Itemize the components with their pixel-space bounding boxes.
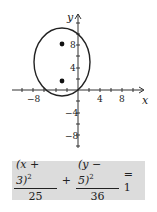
y-axis: 8 4 −4 −8 y (65, 11, 81, 148)
focus-point-lower (60, 79, 65, 84)
y-tick-neg8: −8 (65, 131, 79, 141)
x-axis: −8 4 8 x (12, 87, 149, 107)
equation-box: (x + 3)2 25 + (y − 5)2 36 = 1 (12, 161, 145, 200)
y-tick-8: 8 (70, 40, 76, 50)
denominator-y: 36 (90, 189, 104, 203)
y-axis-label: y (66, 11, 74, 24)
y-tick-neg4: −4 (65, 108, 79, 118)
ellipse-graph: −8 4 8 x 8 4 −4 −8 y (0, 0, 157, 160)
fraction-x: (x + 3)2 25 (14, 158, 57, 203)
x-tick-4: 4 (97, 94, 103, 104)
ellipse-curve (34, 28, 90, 96)
x-axis-label: x (142, 94, 149, 107)
plus-sign: + (62, 174, 71, 187)
denominator-x: 25 (28, 189, 42, 203)
fraction-y: (y − 5)2 36 (76, 158, 119, 203)
x-tick-neg8: −8 (27, 94, 41, 104)
equals-one: = 1 (124, 168, 142, 194)
focus-point-upper (60, 42, 65, 47)
exponent-x: 2 (27, 173, 31, 181)
y-tick-4: 4 (70, 63, 76, 73)
exponent-y: 2 (89, 173, 93, 181)
x-tick-8: 8 (119, 94, 125, 104)
